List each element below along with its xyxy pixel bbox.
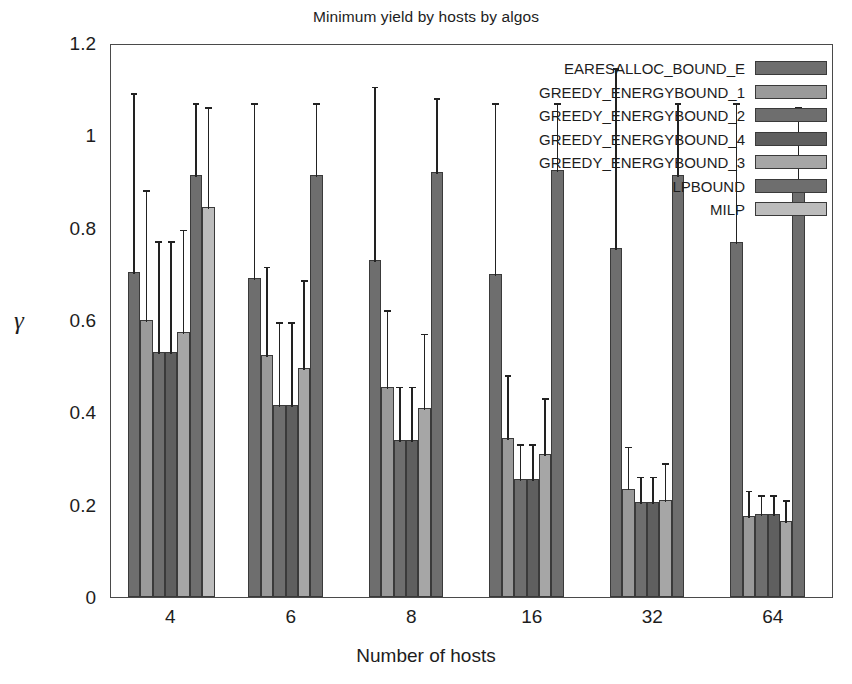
- bar: [431, 172, 443, 597]
- error-bar-stem: [785, 500, 787, 523]
- error-bar-cap: [131, 93, 138, 95]
- error-bar-cap: [301, 280, 308, 282]
- error-bar-cap: [492, 103, 499, 105]
- error-bar-stem: [761, 495, 763, 516]
- error-bar-cap: [313, 103, 320, 105]
- legend-item[interactable]: GREEDY_ENERGYBOUND_1: [505, 82, 827, 103]
- y-tick-label: 0: [34, 587, 96, 609]
- bar: [286, 405, 298, 597]
- bar: [128, 272, 140, 597]
- bar: [310, 175, 322, 597]
- x-axis-label: Number of hosts: [0, 645, 852, 667]
- error-bar-stem: [773, 495, 775, 516]
- legend-label: GREEDY_ENERGYBOUND_3: [539, 152, 745, 173]
- error-bar-cap: [264, 267, 271, 269]
- bar: [659, 500, 671, 597]
- bar: [369, 260, 381, 597]
- legend-swatch: [755, 132, 827, 146]
- error-bar-cap: [505, 375, 512, 377]
- bar: [514, 479, 526, 597]
- bar: [610, 248, 622, 597]
- bar: [202, 207, 214, 597]
- error-bar-stem: [424, 334, 426, 410]
- bar: [635, 502, 647, 597]
- legend-swatch: [755, 108, 827, 122]
- error-bar-stem: [146, 190, 148, 322]
- error-bar-stem: [316, 103, 318, 177]
- bar: [502, 438, 514, 597]
- legend-label: GREEDY_ENERGYBOUND_2: [539, 105, 745, 126]
- legend-item[interactable]: LPBOUND: [505, 176, 827, 197]
- x-tick-label: 32: [642, 606, 663, 628]
- y-tick-label: 0.6: [34, 310, 96, 332]
- error-bar-stem: [254, 103, 256, 281]
- error-bar-stem: [279, 322, 281, 407]
- y-tick-label: 1.2: [34, 33, 96, 55]
- legend-item[interactable]: GREEDY_ENERGYBOUND_2: [505, 105, 827, 126]
- x-tick-label: 6: [285, 606, 296, 628]
- error-bar-cap: [746, 491, 753, 493]
- error-bar-stem: [411, 387, 413, 442]
- legend-item[interactable]: GREEDY_ENERGYBOUND_3: [505, 152, 827, 173]
- bar: [551, 170, 563, 597]
- error-bar-cap: [168, 241, 175, 243]
- legend-label: EARESALLOC_BOUND_E: [564, 58, 745, 79]
- y-tick-label: 1: [34, 125, 96, 147]
- chart-root: Minimum yield by hosts by algos 00.20.40…: [0, 0, 852, 684]
- error-bar-stem: [507, 375, 509, 440]
- bar: [273, 405, 285, 597]
- error-bar-cap: [637, 477, 644, 479]
- error-bar-cap: [625, 447, 632, 449]
- error-bar-cap: [180, 230, 187, 232]
- error-bar-stem: [652, 477, 654, 505]
- bar: [261, 355, 273, 597]
- error-bar-cap: [409, 387, 416, 389]
- error-bar-cap: [529, 444, 536, 446]
- error-bar-stem: [303, 280, 305, 370]
- legend-swatch: [755, 85, 827, 99]
- error-bar-cap: [542, 398, 549, 400]
- error-bar-stem: [640, 477, 642, 505]
- error-bar-cap: [205, 107, 212, 109]
- legend-item[interactable]: MILP: [505, 199, 827, 220]
- error-bar-cap: [783, 500, 790, 502]
- legend-item[interactable]: EARESALLOC_BOUND_E: [505, 58, 827, 79]
- bar: [140, 320, 152, 597]
- bar: [406, 440, 418, 597]
- bar: [743, 516, 755, 597]
- error-bar-cap: [251, 103, 258, 105]
- error-bar-cap: [517, 444, 524, 446]
- bar: [153, 352, 165, 597]
- error-bar-cap: [770, 495, 777, 497]
- bar: [394, 440, 406, 597]
- error-bar-stem: [266, 267, 268, 357]
- legend-label: MILP: [710, 199, 745, 220]
- x-tick-label: 16: [521, 606, 542, 628]
- error-bar-stem: [399, 387, 401, 442]
- error-bar-stem: [133, 93, 135, 273]
- bar: [780, 521, 792, 597]
- error-bar-cap: [143, 190, 150, 192]
- legend-item[interactable]: GREEDY_ENERGYBOUND_4: [505, 129, 827, 150]
- bar: [539, 454, 551, 597]
- legend-label: GREEDY_ENERGYBOUND_4: [539, 129, 745, 150]
- error-bar-cap: [155, 241, 162, 243]
- bar: [177, 332, 189, 597]
- y-tick-label: 0.2: [34, 495, 96, 517]
- error-bar-stem: [208, 107, 210, 209]
- error-bar-cap: [384, 310, 391, 312]
- error-bar-stem: [170, 241, 172, 354]
- error-bar-stem: [374, 87, 376, 262]
- bar: [730, 242, 742, 597]
- x-tick-label: 4: [165, 606, 176, 628]
- y-axis-label: γ: [14, 307, 24, 335]
- error-bar-cap: [288, 322, 295, 324]
- legend-swatch: [755, 155, 827, 169]
- error-bar-cap: [650, 477, 657, 479]
- legend-swatch: [755, 202, 827, 216]
- error-bar-stem: [158, 241, 160, 354]
- bar: [527, 479, 539, 597]
- bar: [298, 368, 310, 597]
- error-bar-stem: [748, 491, 750, 519]
- error-bar-stem: [436, 98, 438, 174]
